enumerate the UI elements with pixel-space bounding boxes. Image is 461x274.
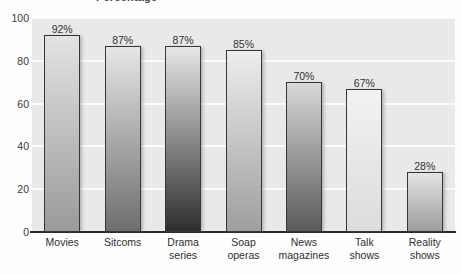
bar: 85% [226,50,262,232]
x-category-label-line: News [274,236,334,249]
chart-title: Percentage [96,0,336,3]
x-category-label-line: series [153,249,213,262]
x-category-label-line: magazines [274,249,334,262]
bar: 70% [286,82,322,232]
bar-group: 87% [165,18,201,232]
y-tick-label: 20 [3,183,29,195]
bar-value-label: 87% [112,34,133,46]
x-category-label: Talkshows [334,236,394,261]
x-category-label-line: Reality [395,236,455,249]
x-category-label: Newsmagazines [274,236,334,261]
y-tick-label: 60 [3,98,29,110]
x-category-label-line: operas [213,249,273,262]
y-tick-label: 0 [3,226,29,238]
y-tick-label: 40 [3,140,29,152]
bar-group: 67% [346,18,382,232]
bar: 87% [105,46,141,232]
bar-chart: Percentage 020406080100 92%Movies87%Sitc… [0,0,461,274]
bar-value-label: 92% [52,23,73,35]
bar-value-label: 87% [173,34,194,46]
bar-value-label: 28% [414,160,435,172]
x-category-label-line: Talk [334,236,394,249]
x-category-label-line: Movies [32,236,92,249]
x-category-label: Realityshows [395,236,455,261]
bar: 92% [44,35,80,232]
bar: 28% [407,172,443,232]
x-category-label-line: Soap [213,236,273,249]
x-category-label-line: shows [395,249,455,262]
x-category-label-line: Drama [153,236,213,249]
x-category-label: Sitcoms [92,236,152,249]
y-tick-label: 100 [3,12,29,24]
y-axis: 020406080100 [0,18,29,232]
x-category-label: Dramaseries [153,236,213,261]
bar-group: 92% [44,18,80,232]
x-category-label-line: shows [334,249,394,262]
x-category-label-line: Sitcoms [92,236,152,249]
bar-value-label: 67% [354,77,375,89]
y-tick-label: 80 [3,55,29,67]
bar: 67% [346,89,382,232]
bar-group: 70% [286,18,322,232]
bar-group: 85% [226,18,262,232]
bar-value-label: 85% [233,38,254,50]
x-category-label: Soapoperas [213,236,273,261]
bar-value-label: 70% [293,70,314,82]
bar: 87% [165,46,201,232]
bar-group: 87% [105,18,141,232]
x-category-label: Movies [32,236,92,249]
bar-group: 28% [407,18,443,232]
